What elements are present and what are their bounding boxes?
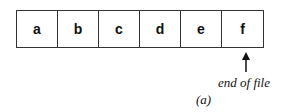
file-cell-strip: a b c d e f <box>16 10 264 48</box>
file-cell: e <box>181 11 222 47</box>
file-cell: c <box>99 11 140 47</box>
up-arrow-icon <box>241 52 251 72</box>
file-cell: b <box>58 11 99 47</box>
file-cell: a <box>17 11 58 47</box>
file-cell: d <box>140 11 181 47</box>
file-cell-last: f <box>222 11 263 47</box>
end-of-file-label: end of file <box>218 75 270 91</box>
figure-caption: (a) <box>196 92 211 108</box>
